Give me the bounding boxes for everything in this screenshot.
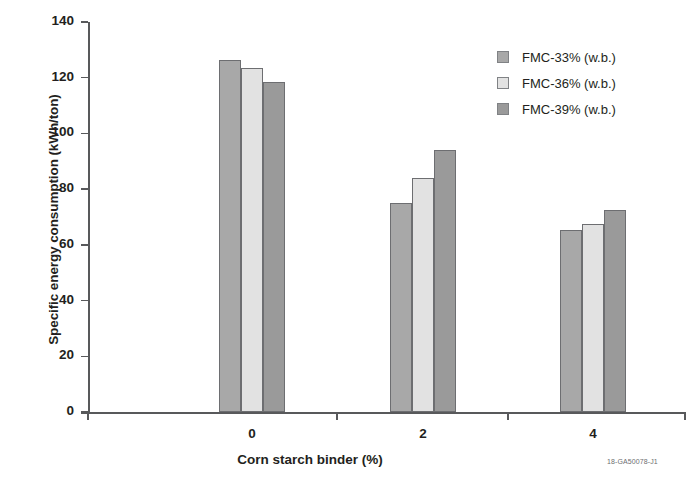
y-axis-tick xyxy=(81,356,88,357)
y-axis-tick xyxy=(81,133,88,134)
bar xyxy=(560,230,582,412)
legend-swatch-icon xyxy=(497,77,509,89)
x-axis-tick-label: 2 xyxy=(393,426,453,441)
y-axis-tick-label: 60 xyxy=(28,236,74,251)
y-axis-tick xyxy=(81,188,88,189)
legend-item-label: FMC-33% (w.b.) xyxy=(522,50,616,65)
bar xyxy=(263,82,285,412)
legend-swatch-icon xyxy=(497,103,509,115)
y-axis-tick-label: 120 xyxy=(28,69,74,84)
x-axis-tick-label: 4 xyxy=(563,426,623,441)
bar xyxy=(582,224,604,412)
chart-figure: Specific energy consumption (kWh/ton) 02… xyxy=(0,0,699,488)
bar xyxy=(604,210,626,412)
legend-item: FMC-39% (w.b.) xyxy=(497,96,616,122)
legend-item: FMC-36% (w.b.) xyxy=(497,70,616,96)
x-axis-title: Corn starch binder (%) xyxy=(0,452,620,467)
legend-item: FMC-33% (w.b.) xyxy=(497,44,616,70)
legend-item-label: FMC-39% (w.b.) xyxy=(522,102,616,117)
y-axis-tick xyxy=(81,300,88,301)
legend-item-label: FMC-36% (w.b.) xyxy=(522,76,616,91)
y-axis-line xyxy=(88,22,90,412)
x-axis-tick xyxy=(87,412,88,420)
y-axis-tick-label: 0 xyxy=(28,403,74,418)
y-axis-tick xyxy=(81,21,88,22)
x-axis-tick xyxy=(336,412,337,420)
x-axis-line xyxy=(81,412,685,414)
bar xyxy=(412,178,434,412)
y-axis-tick-label: 80 xyxy=(28,180,74,195)
x-axis-tick-label: 0 xyxy=(222,426,282,441)
legend-swatch-icon xyxy=(497,51,509,63)
y-axis-tick-label: 20 xyxy=(28,347,74,362)
x-axis-tick xyxy=(507,412,508,420)
bar xyxy=(390,203,412,412)
y-axis-tick-label: 40 xyxy=(28,292,74,307)
bar xyxy=(241,68,263,412)
x-axis-tick xyxy=(684,412,685,420)
y-axis-title: Specific energy consumption (kWh/ton) xyxy=(46,55,61,385)
y-axis-tick-label: 100 xyxy=(28,124,74,139)
y-axis-tick xyxy=(81,77,88,78)
chart-legend: FMC-33% (w.b.)FMC-36% (w.b.)FMC-39% (w.b… xyxy=(497,44,616,122)
y-axis-tick-label: 140 xyxy=(28,13,74,28)
bar xyxy=(434,150,456,412)
figure-id-code: 18-GA50078-J1 xyxy=(607,458,658,465)
y-axis-tick xyxy=(81,244,88,245)
bar xyxy=(219,60,241,412)
